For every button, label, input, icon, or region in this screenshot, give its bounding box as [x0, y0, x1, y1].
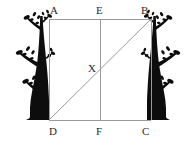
left-tree-leaves [15, 9, 56, 89]
right-tree-leaves [140, 9, 181, 89]
label-d: D [49, 126, 57, 137]
label-b: B [141, 5, 148, 16]
label-c: C [142, 126, 149, 137]
left-tree-silhouette [15, 9, 56, 120]
geometry-figure: A E B X D F C [0, 0, 196, 148]
label-e: E [96, 5, 103, 16]
label-x: X [88, 63, 96, 74]
right-tree-silhouette [140, 9, 181, 120]
label-a: A [50, 5, 58, 16]
label-f: F [96, 126, 102, 137]
